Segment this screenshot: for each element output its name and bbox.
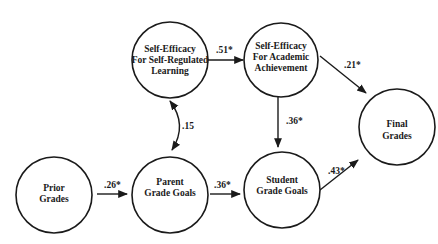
svg-text:Grade Goals: Grade Goals: [256, 186, 308, 196]
node-self-efficacy-academic-achievement: Self-Efficacy For Academic Achievement: [244, 23, 318, 97]
svg-text:Achievement: Achievement: [255, 63, 309, 73]
svg-text:Grades: Grades: [39, 194, 69, 204]
svg-text:Grades: Grades: [382, 131, 412, 141]
coef-seaa-student: .36*: [286, 116, 303, 126]
coef-parent-sesrl: .15: [182, 121, 194, 131]
svg-text:Grade Goals: Grade Goals: [144, 188, 196, 198]
node-self-efficacy-self-regulated-learning: Self-Efficacy For Self-Regulated Learnin…: [132, 22, 209, 98]
svg-text:Parent: Parent: [156, 177, 184, 187]
svg-text:Self-Efficacy: Self-Efficacy: [255, 41, 307, 51]
coef-sesrl-seaa: .51*: [216, 45, 233, 55]
edge-parent-sesrl-correlation: [170, 101, 180, 150]
node-student-grade-goals: Student Grade Goals: [244, 152, 320, 228]
coef-student-final: .43*: [328, 166, 345, 176]
svg-text:For Self-Regulated: For Self-Regulated: [132, 55, 209, 65]
svg-text:For Academic: For Academic: [253, 52, 310, 62]
svg-text:Self-Efficacy: Self-Efficacy: [144, 44, 196, 54]
svg-text:Final: Final: [386, 119, 407, 129]
coef-prior-parent: .26*: [104, 180, 121, 190]
svg-text:Student: Student: [266, 175, 299, 185]
node-parent-grade-goals: Parent Grade Goals: [132, 157, 208, 233]
node-prior-grades: Prior Grades: [16, 157, 92, 233]
coef-parent-student: .36*: [214, 180, 231, 190]
svg-text:Learning: Learning: [151, 66, 189, 76]
node-final-grades: Final Grades: [359, 89, 435, 165]
svg-text:Prior: Prior: [43, 183, 65, 193]
path-diagram: .26* .36* .43* .51* .21* .36* .15 Self-E…: [0, 0, 438, 244]
coef-seaa-final: .21*: [344, 60, 361, 70]
